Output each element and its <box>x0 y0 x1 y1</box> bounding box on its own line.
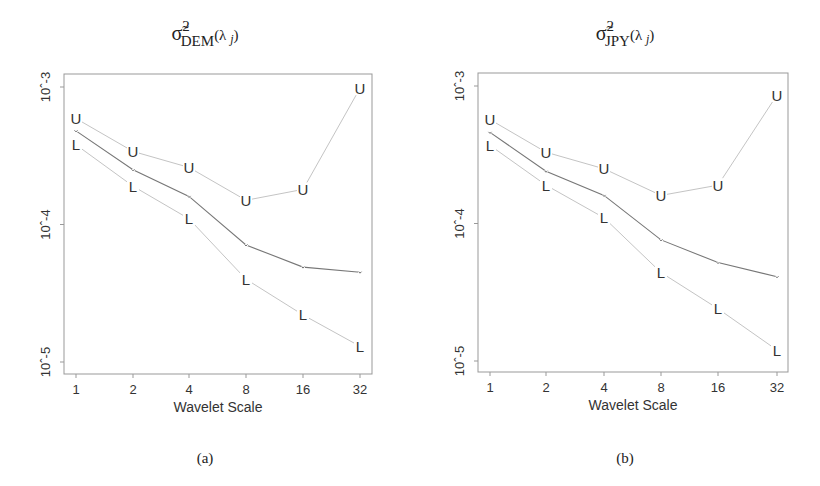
title-close: ) <box>649 27 654 44</box>
x-tick-label: 1 <box>486 380 493 395</box>
title-argument: (λ <box>214 27 230 44</box>
upper-marker: U <box>71 110 82 127</box>
chart-a: σ̃2DEM(λ j)10ˆ-310ˆ-410ˆ-512481632Wavele… <box>0 0 410 486</box>
upper-marker: U <box>355 80 366 97</box>
x-tick-label: 8 <box>242 382 249 397</box>
y-tick-label: 10ˆ-3 <box>452 71 467 101</box>
x-tick-label: 2 <box>542 380 549 395</box>
upper-marker: U <box>713 177 724 194</box>
title-close: ) <box>234 27 239 44</box>
upper-bound-line <box>76 88 360 200</box>
lower-marker: L <box>486 137 494 154</box>
title-superscript: 2 <box>182 18 190 34</box>
x-tick-label: 32 <box>770 380 784 395</box>
chart-title: σ̃2DEM(λ j) <box>172 18 239 49</box>
lower-marker: L <box>542 177 550 194</box>
upper-marker: U <box>656 187 667 204</box>
y-tick-label: 10ˆ-5 <box>452 346 467 376</box>
chart-b: σ̃2JPY(λ j)10ˆ-310ˆ-410ˆ-512481632Wavele… <box>410 0 820 486</box>
upper-marker: U <box>298 181 309 198</box>
panel-a: σ̃2DEM(λ j)10ˆ-310ˆ-410ˆ-512481632Wavele… <box>0 0 410 486</box>
panel-caption: (b) <box>616 450 634 467</box>
lower-marker: L <box>185 210 193 227</box>
x-tick-label: 1 <box>72 382 79 397</box>
x-axis-label: Wavelet Scale <box>174 399 263 415</box>
lower-marker: L <box>242 271 250 288</box>
x-tick-label: 16 <box>296 382 310 397</box>
upper-marker: U <box>184 159 195 176</box>
plot-frame <box>478 73 788 372</box>
estimate-line <box>490 132 777 276</box>
lower-marker: L <box>72 136 80 153</box>
y-tick-label: 10ˆ-4 <box>38 209 53 239</box>
lower-marker: L <box>129 178 137 195</box>
plot-frame <box>64 74 372 374</box>
x-tick-label: 32 <box>353 382 367 397</box>
upper-marker: U <box>599 160 610 177</box>
x-tick-label: 4 <box>185 382 192 397</box>
title-argument: (λ <box>630 27 646 44</box>
chart-title: σ̃2JPY(λ j) <box>596 18 655 49</box>
lower-marker: L <box>600 209 608 226</box>
lower-bound-line <box>490 145 777 350</box>
upper-marker: U <box>128 143 139 160</box>
lower-bound-line <box>76 145 360 347</box>
y-tick-label: 10ˆ-5 <box>38 347 53 377</box>
y-tick-label: 10ˆ-3 <box>38 72 53 102</box>
x-axis-label: Wavelet Scale <box>589 397 678 413</box>
title-subscript: DEM <box>181 33 214 49</box>
upper-marker: U <box>485 111 496 128</box>
lower-marker: L <box>356 338 364 355</box>
x-tick-label: 4 <box>600 380 607 395</box>
upper-marker: U <box>241 192 252 209</box>
estimate-line <box>76 131 360 272</box>
lower-marker: L <box>714 300 722 317</box>
upper-bound-line <box>490 95 777 195</box>
title-superscript: 2 <box>606 18 614 34</box>
panel-caption: (a) <box>197 450 214 467</box>
lower-marker: L <box>657 264 665 281</box>
title-subscript: JPY <box>605 33 630 49</box>
x-tick-label: 8 <box>657 380 664 395</box>
lower-marker: L <box>299 306 307 323</box>
x-tick-label: 16 <box>711 380 725 395</box>
upper-marker: U <box>772 87 783 104</box>
upper-marker: U <box>541 144 552 161</box>
x-tick-label: 2 <box>129 382 136 397</box>
panel-b: σ̃2JPY(λ j)10ˆ-310ˆ-410ˆ-512481632Wavele… <box>410 0 820 486</box>
y-tick-label: 10ˆ-4 <box>452 208 467 238</box>
lower-marker: L <box>773 342 781 359</box>
